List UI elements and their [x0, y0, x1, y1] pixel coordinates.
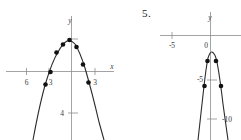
- left-parabola-curve: [33, 41, 104, 140]
- right-xtick-label-neg5: -5: [169, 41, 175, 50]
- left-graph-figure: y x 6 3 3 4: [0, 0, 120, 140]
- left-xtick-label-pos3: 3: [93, 78, 97, 87]
- left-graph-svg: y x 6 3 3 4: [0, 0, 120, 140]
- left-x-axis-label: x: [109, 62, 114, 71]
- left-data-point: [86, 80, 91, 85]
- right-graph-svg: y -5 0 -5 -10: [120, 0, 241, 140]
- left-data-point: [67, 38, 72, 43]
- left-y-axis-label: y: [67, 16, 72, 25]
- right-ytick-label-neg10: -10: [222, 115, 232, 124]
- right-data-point: [202, 84, 207, 89]
- left-ytick-label-neg4: 4: [60, 109, 64, 118]
- left-data-point: [61, 42, 66, 47]
- right-xtick-label-zero: 0: [204, 41, 208, 50]
- right-y-axis-label: y: [207, 13, 212, 22]
- left-data-point: [43, 82, 48, 87]
- right-ytick-label-neg5: -5: [197, 75, 203, 84]
- left-data-point: [74, 45, 79, 50]
- right-data-point: [219, 84, 224, 89]
- left-xtick-label-neg3: 3: [49, 78, 53, 87]
- left-data-point: [81, 62, 86, 67]
- left-data-point: [54, 50, 59, 55]
- figure-page: y x 6 3 3 4 5.: [0, 0, 241, 140]
- right-graph-figure: 5. y -5 0 -5 -10: [120, 0, 241, 140]
- right-data-point: [214, 59, 219, 64]
- left-data-point: [48, 70, 53, 75]
- problem-number-label: 5.: [142, 7, 151, 19]
- right-parabola-curve: [198, 52, 228, 140]
- right-data-point: [205, 59, 210, 64]
- left-xtick-label-neg6: 6: [25, 78, 29, 87]
